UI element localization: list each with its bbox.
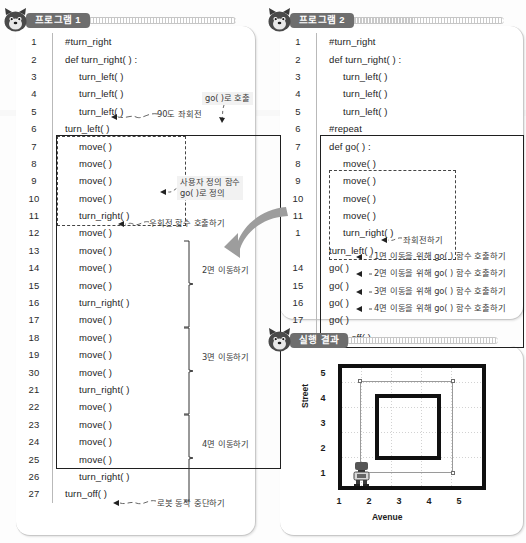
code-text: move( ) [53, 141, 112, 152]
code-text: go( ) [317, 280, 349, 291]
code-line[interactable]: 13move( ) [16, 242, 255, 259]
line-number: 10 [16, 193, 52, 204]
code-text: move( ) [53, 193, 112, 204]
line-number: 9 [280, 175, 316, 186]
code-line[interactable]: 3turn_left( ) [280, 68, 523, 85]
note-call-go: go( )로 호출 [202, 92, 253, 105]
code-line[interactable]: 23move( ) [16, 416, 255, 433]
leader-rotate90 [106, 109, 160, 127]
code-text: def go( ) : [317, 141, 371, 152]
note-turn-off: 로봇 동작 중단하기 [157, 496, 225, 508]
x-tick-5: 5 [452, 496, 466, 506]
line-number: 27 [16, 488, 52, 499]
x-tick-2: 2 [362, 496, 376, 506]
header-rule [354, 17, 504, 24]
code-line[interactable]: 5turn_left( ) [280, 103, 523, 120]
line-number: 10 [280, 193, 316, 204]
line-number: 11 [16, 210, 52, 221]
note-turn-left: 좌회전하기 [403, 233, 443, 245]
code-text: move( ) [317, 175, 376, 186]
code-line[interactable]: 25move( ) [16, 450, 255, 467]
line-number: 23 [16, 419, 52, 430]
code-line[interactable]: 11move( ) [280, 207, 523, 224]
code-line[interactable]: 3turn_left( ) [16, 68, 255, 85]
page-root: 1#turn_right2def turn_right( ) :3turn_le… [0, 0, 526, 543]
code-text: move( ) [53, 349, 112, 360]
line-number: 15 [16, 280, 52, 291]
code-text: move( ) [53, 436, 112, 447]
line-number: 24 [16, 436, 52, 447]
brace-move3 [182, 327, 194, 415]
leader-go3 [354, 284, 374, 302]
code-text: turn_left( ) [53, 88, 124, 99]
code-line[interactable]: 21turn_right( ) [16, 381, 255, 398]
note-go1: 1면 이동을 위해 go( ) 함수 호출하기 [374, 249, 506, 261]
y-tick-5: 5 [316, 368, 330, 378]
code-text: move( ) [53, 367, 112, 378]
code-line[interactable]: 15move( ) [16, 276, 255, 293]
line-number: 5 [16, 106, 52, 117]
code-line[interactable]: 8move( ) [280, 155, 523, 172]
code-line[interactable]: 4turn_left( ) [280, 85, 523, 102]
note-define-go: 사용자 정의 함수 go( )로 정의 [177, 176, 243, 200]
line-number: 2 [16, 54, 52, 65]
y-tick-3: 3 [316, 418, 330, 428]
code-line[interactable]: 7def go( ) : [280, 137, 523, 154]
x-tick-3: 3 [392, 496, 406, 506]
code-line[interactable]: 18move( ) [16, 329, 255, 346]
program-1-header: 프로그램 1 [2, 8, 260, 32]
line-number: 12 [16, 227, 52, 238]
panel-program-2: 1#turn_right2def turn_right( ) :3turn_le… [266, 4, 524, 324]
wolf-mascot-icon [2, 7, 29, 33]
line-number: 6 [280, 123, 316, 134]
code-line[interactable]: 7move( ) [16, 137, 255, 154]
code-text: move( ) [53, 314, 112, 325]
code-line[interactable]: 2def turn_right( ) : [16, 50, 255, 67]
line-number: 3 [16, 71, 52, 82]
code-text: turn_right( ) [53, 384, 129, 395]
code-text: move( ) [53, 280, 112, 291]
wolf-mascot-icon [266, 7, 293, 33]
code-line[interactable]: 30move( ) [16, 363, 255, 380]
panel-program-1: 1#turn_right2def turn_right( ) :3turn_le… [2, 4, 260, 539]
line-number: 1 [16, 36, 52, 47]
code-line[interactable]: 16turn_right( ) [16, 294, 255, 311]
inner-square-shape [375, 394, 441, 460]
code-line[interactable]: 9move( ) [280, 172, 523, 189]
code-line[interactable]: 10move( ) [280, 190, 523, 207]
code-text: move( ) [317, 158, 376, 169]
y-axis-label: Street [300, 384, 310, 408]
code-text: turn_right( ) [53, 297, 129, 308]
code-line[interactable]: 1#turn_right [16, 33, 255, 50]
line-number: 8 [280, 158, 316, 169]
line-number: 7 [280, 141, 316, 152]
line-number: 25 [16, 454, 52, 465]
code-line[interactable]: 22move( ) [16, 398, 255, 415]
code-text: def turn_right( ) : [53, 54, 137, 65]
header-rule [348, 337, 498, 344]
line-number: 16 [280, 297, 316, 308]
note-rotate90: 90도 좌회전 [157, 107, 202, 119]
code-text: move( ) [317, 193, 376, 204]
code-line[interactable]: 26turn_right( ) [16, 468, 255, 485]
code-text: turn_off( ) [53, 488, 107, 499]
line-number: 3 [280, 71, 316, 82]
code-line[interactable]: 2def turn_right( ) : [280, 50, 523, 67]
execution-result-chart: Street 5 4 3 2 1 [302, 360, 508, 510]
robot-icon [352, 460, 371, 490]
code-text: turn_left( ) [317, 88, 388, 99]
code-line[interactable]: 1#turn_right [280, 33, 523, 50]
program-2-code[interactable]: 1#turn_right2def turn_right( ) :3turn_le… [280, 26, 523, 346]
wolf-mascot-icon [266, 327, 293, 353]
panel-result: Street 5 4 3 2 1 [266, 324, 524, 540]
note-move4: 4면 이동하기 [202, 437, 249, 449]
code-line[interactable]: 8move( ) [16, 155, 255, 172]
code-line[interactable]: 6#repeat [280, 120, 523, 137]
leader-call-turn-right [115, 216, 151, 234]
line-number: 19 [16, 349, 52, 360]
code-line[interactable]: 17move( ) [16, 311, 255, 328]
code-text: move( ) [53, 158, 112, 169]
code-text: def turn_right( ) : [317, 54, 401, 65]
code-text: go( ) [317, 297, 349, 308]
code-text: move( ) [53, 401, 112, 412]
